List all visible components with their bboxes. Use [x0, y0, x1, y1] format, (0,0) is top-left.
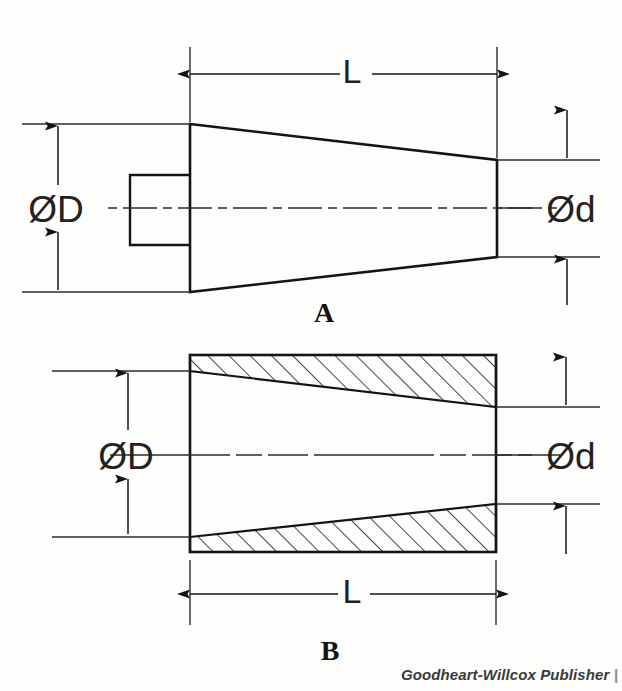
view-b-label-small-diameter: Ød — [546, 436, 595, 477]
publisher-credit-tail: | — [614, 666, 618, 683]
view-b-hatch-upper — [190, 355, 496, 407]
view-b-group — [52, 355, 600, 625]
taper-drawing-svg: L ØD Ød A ØD Ød L B — [0, 0, 622, 691]
view-a-group — [22, 47, 600, 305]
view-b-hatch-lower — [190, 504, 496, 552]
publisher-credit-text: Goodheart-Willcox Publisher — [401, 666, 609, 683]
view-a-label-small-diameter: Ød — [546, 189, 595, 230]
view-a-label-length: L — [343, 52, 362, 90]
view-b-label-large-diameter: ØD — [98, 436, 154, 477]
view-b-label-length: L — [343, 572, 362, 610]
view-b-caption: B — [321, 635, 340, 666]
publisher-credit: Goodheart-Willcox Publisher | — [401, 666, 618, 683]
view-a-caption: A — [314, 297, 335, 328]
view-a-tang-outline — [130, 175, 190, 245]
view-a-label-large-diameter: ØD — [28, 189, 84, 230]
technical-drawing-canvas: L ØD Ød A ØD Ød L B Goodheart-Willcox Pu… — [0, 0, 622, 691]
